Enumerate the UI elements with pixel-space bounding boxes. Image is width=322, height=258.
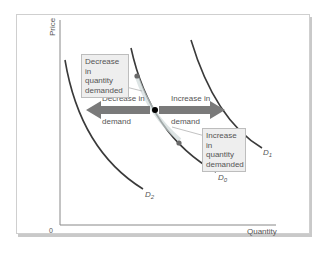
point-original bbox=[152, 107, 158, 113]
decrease-qd-line2: quantity bbox=[85, 76, 125, 86]
d2-label: D2 bbox=[145, 190, 155, 200]
increase-qd-line1: Increase in bbox=[206, 131, 242, 150]
decrease-qd-box: Decrease in quantity demanded bbox=[81, 54, 129, 98]
decrease-qd-line1: Decrease in bbox=[85, 57, 125, 76]
increase-qd-box: Increase in quantity demanded bbox=[202, 128, 246, 172]
d1-label: D1 bbox=[263, 148, 272, 158]
x-axis-label: Quantity bbox=[247, 227, 277, 236]
increase-qd-line2: quantity bbox=[206, 150, 242, 160]
point-lower bbox=[176, 140, 181, 145]
origin-label: 0 bbox=[49, 227, 53, 234]
demand-diagram: Price Quantity 0 D2 D0 D1 Decrease in de… bbox=[0, 0, 322, 258]
leader-increase-qd bbox=[172, 127, 205, 136]
point-upper bbox=[134, 73, 139, 78]
increase-demand-top: Increase in bbox=[171, 94, 210, 103]
decrease-qd-line3: demanded bbox=[85, 86, 125, 96]
increase-demand-bottom: demand bbox=[171, 117, 200, 126]
y-axis-label: Price bbox=[48, 17, 57, 36]
increase-qd-line3: demanded bbox=[206, 160, 242, 170]
decrease-demand-bottom: demand bbox=[102, 117, 131, 126]
d0-label: D0 bbox=[218, 173, 228, 183]
